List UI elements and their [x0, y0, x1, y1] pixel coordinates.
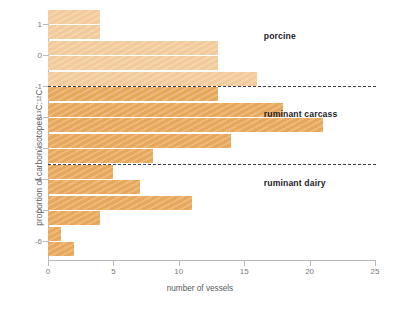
bar [48, 103, 283, 117]
plot-area [48, 12, 375, 260]
x-axis-tick-label: 15 [229, 267, 259, 276]
x-axis-title: number of vessels [0, 284, 400, 293]
x-axis-tick-label: 5 [98, 267, 128, 276]
bar [48, 211, 100, 225]
x-axis-tick-mark [375, 261, 376, 266]
y-axis-tick-label: -5 [0, 205, 48, 215]
bar [48, 165, 113, 179]
x-axis-tick-mark [179, 261, 180, 266]
y-axis-tick-label: -6 [0, 236, 48, 246]
x-axis-tick-label: 25 [360, 267, 390, 276]
y-axis-title-carbon-colon: C: [35, 102, 44, 110]
bar [48, 56, 218, 70]
x-axis-tick-mark [113, 261, 114, 266]
y-axis-tick-label: -4 [0, 174, 48, 184]
y-axis-title-superscript-12: 12 [36, 95, 42, 101]
porcine-ruminant-carcass-divider [48, 86, 376, 87]
bar [48, 41, 218, 55]
group-label-ruminant-dairy: ruminant dairy [264, 178, 326, 188]
y-axis-tick-label: 1 [0, 19, 48, 29]
ruminant-carcass-ruminant-dairy-divider [48, 164, 376, 165]
y-axis-tick-label: -2 [0, 112, 48, 122]
x-axis-tick-label: 0 [33, 267, 63, 276]
y-axis-tick-label: -1 [0, 81, 48, 91]
x-axis-tick-label: 20 [295, 267, 325, 276]
y-axis-tick-label: -3 [0, 143, 48, 153]
bar [48, 72, 257, 86]
x-axis-tick-mark [48, 261, 49, 266]
x-axis-tick-mark [244, 261, 245, 266]
bar [48, 10, 100, 24]
bar [48, 134, 231, 148]
bar [48, 149, 153, 163]
bar [48, 118, 323, 132]
bar [48, 180, 140, 194]
x-axis-tick-mark [310, 261, 311, 266]
bar [48, 196, 192, 210]
bar [48, 242, 74, 256]
y-axis-tick-label: 0 [0, 50, 48, 60]
x-axis-tick-label: 10 [164, 267, 194, 276]
x-axis-line [48, 260, 376, 261]
bar [48, 227, 61, 241]
group-label-porcine: porcine [264, 31, 296, 41]
chart-figure: proportion of carbon isotopes 13C:12C 10… [0, 0, 400, 315]
bar [48, 25, 100, 39]
bar [48, 87, 218, 101]
group-label-ruminant-carcass: ruminant carcass [264, 109, 338, 119]
